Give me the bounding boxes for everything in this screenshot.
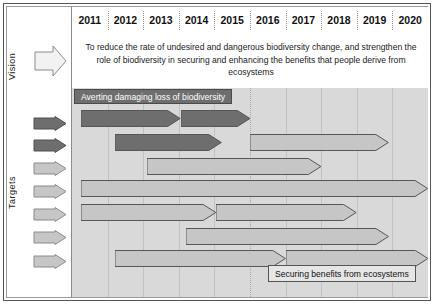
sidebar-label-vision: Vision — [7, 37, 23, 95]
figure-root: Vision Targets 20112 — [0, 0, 434, 304]
target-arrow-6-icon — [33, 230, 67, 245]
year-tick-2018 — [321, 11, 322, 30]
timeline-bar-row1-2 — [181, 110, 250, 127]
timeline-bar-row2-2 — [250, 134, 389, 151]
year-label-2016: 2016 — [250, 7, 286, 32]
year-tick-2017 — [286, 11, 287, 30]
target-arrow-5-icon — [33, 207, 67, 222]
year-label-2014: 2014 — [179, 7, 215, 32]
year-axis-header: 2011201220132014201520162017201820192020 — [72, 7, 428, 32]
year-tick-2015 — [214, 11, 215, 30]
sidebar: Vision Targets — [7, 7, 72, 297]
year-label-2015: 2015 — [214, 7, 250, 32]
banner-averting-damaging-loss: Averting damaging loss of biodiversity — [74, 89, 232, 104]
timeline-bar-row1-1 — [81, 110, 181, 127]
target-arrow-4-icon — [33, 184, 67, 199]
timeline-bar-row6-1 — [186, 228, 389, 245]
year-label-2013: 2013 — [143, 7, 179, 32]
timeline-plot-area: Averting damaging loss of biodiversitySe… — [72, 88, 428, 297]
year-tick-2014 — [179, 11, 180, 30]
timeline-bar-row5-1 — [81, 204, 216, 221]
year-tick-2016 — [250, 11, 251, 30]
year-label-2017: 2017 — [286, 7, 322, 32]
timeline-bar-row2-1 — [115, 134, 222, 151]
target-arrow-3-icon — [33, 161, 67, 176]
year-tick-2012 — [108, 11, 109, 30]
sidebar-label-targets: Targets — [7, 157, 23, 227]
target-arrow-2-icon — [33, 138, 67, 153]
timeline-bar-row4-1 — [81, 180, 428, 197]
year-label-2012: 2012 — [108, 7, 144, 32]
year-tick-2019 — [357, 11, 358, 30]
year-tick-2020 — [392, 11, 393, 30]
banner-securing-benefits: Securing benefits from ecosystems — [268, 265, 416, 282]
timeline-bar-row5-2 — [216, 204, 357, 221]
year-label-2011: 2011 — [72, 7, 108, 32]
year-label-2019: 2019 — [357, 7, 393, 32]
vision-band: To reduce the rate of undesired and dang… — [72, 32, 428, 88]
year-label-2020: 2020 — [392, 7, 428, 32]
target-arrow-1-icon — [33, 116, 67, 131]
timeline-bar-row7-1 — [115, 250, 286, 267]
year-tick-2013 — [143, 11, 144, 30]
vision-arrow-outline-icon — [33, 45, 67, 77]
vision-statement-text: To reduce the rate of undesired and dang… — [78, 41, 424, 79]
target-arrow-7-icon — [33, 254, 67, 269]
year-label-2018: 2018 — [321, 7, 357, 32]
timeline-bar-row3-1 — [147, 158, 321, 175]
